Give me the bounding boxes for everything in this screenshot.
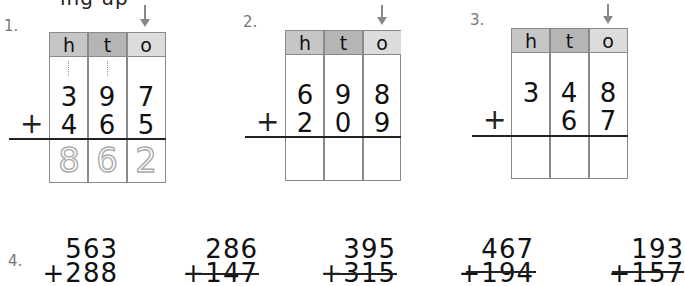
digit: 7: [589, 108, 627, 134]
carry-guide-tens: [107, 61, 108, 76]
header-ones: o: [363, 31, 401, 55]
answer-line: [612, 271, 684, 273]
place-value-grid: h t o 3 9 7 4 6 5 8 6 2: [49, 32, 166, 183]
digit: 6: [88, 112, 126, 138]
digit: 5: [127, 112, 165, 138]
plus-sign: +: [256, 109, 279, 135]
answer-cell-ones[interactable]: [363, 146, 401, 174]
heading-fragment: ing up: [60, 0, 129, 10]
answer-line: [466, 271, 536, 273]
header-tens: t: [550, 29, 589, 53]
sum-line: [472, 135, 628, 137]
answer-cell-hundreds[interactable]: [286, 146, 324, 174]
down-arrow-icon: [607, 4, 609, 22]
answer-digit-traced: 8: [50, 143, 88, 177]
problem-number: 1.: [4, 17, 18, 35]
header-hundreds: h: [512, 29, 550, 53]
header-tens: t: [324, 31, 363, 55]
digit: 6: [286, 82, 324, 108]
down-arrow-icon: [144, 5, 146, 25]
answer-line: [325, 273, 397, 275]
header-ones: o: [589, 29, 627, 53]
carry-guide-hundreds: [68, 61, 69, 76]
digit: 9: [88, 84, 126, 110]
header-ones: o: [127, 33, 165, 57]
problem-number: 2.: [243, 13, 257, 31]
header-hundreds: h: [50, 33, 88, 57]
digit: 4: [50, 112, 88, 138]
answer-line: [189, 273, 259, 275]
digit: 0: [324, 110, 362, 136]
digit: 9: [324, 82, 362, 108]
addend-bottom: +288: [40, 260, 118, 286]
digit: 6: [550, 108, 588, 134]
plus-sign: +: [20, 111, 43, 137]
digit: 7: [127, 84, 165, 110]
digit: 3: [50, 84, 88, 110]
answer-cell-hundreds[interactable]: [512, 144, 550, 172]
header-tens: t: [88, 33, 127, 57]
sum-line: [9, 138, 166, 140]
addend-bottom: +157: [606, 260, 684, 286]
sum-line: [245, 136, 401, 138]
digit: 8: [589, 80, 627, 106]
answer-digit-traced: 2: [127, 143, 165, 177]
digit: 8: [363, 82, 401, 108]
digit: 3: [512, 80, 550, 106]
answer-cell-tens[interactable]: [324, 146, 362, 174]
plus-sign: +: [483, 107, 506, 133]
place-value-grid: h t o 6 9 8 2 0 9: [285, 30, 401, 181]
answer-cell-ones[interactable]: [589, 144, 627, 172]
addend-bottom: +194: [456, 260, 534, 286]
place-value-grid: h t o 3 4 8 6 7: [511, 28, 628, 179]
digit: 4: [550, 80, 588, 106]
answer-cell-tens[interactable]: [550, 144, 588, 172]
problem-number: 3.: [470, 11, 484, 29]
answer-digit-traced: 6: [88, 143, 126, 177]
digit: 2: [286, 110, 324, 136]
header-hundreds: h: [286, 31, 324, 55]
problem-number: 4.: [8, 252, 22, 270]
digit: 9: [363, 110, 401, 136]
down-arrow-icon: [381, 5, 383, 23]
